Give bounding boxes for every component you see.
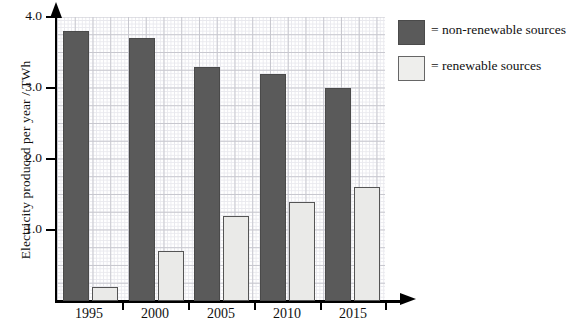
y-tick-label-1: 1.0: [6, 221, 42, 237]
bar-2005-non-renewable-sources: [194, 67, 220, 301]
chart-figure: Electricity produced per year / TWh 4.0 …: [0, 0, 576, 323]
y-tick-mark-1: [46, 229, 56, 231]
legend-item-renewable: = renewable sources: [398, 54, 576, 90]
y-tick-label-3: 3.0: [6, 79, 42, 95]
y-tick-mark-2: [46, 158, 56, 160]
x-tick-label-2015: 2015: [318, 306, 388, 322]
y-tick-mark-3: [46, 87, 56, 89]
non-renewable-swatch-icon: [398, 20, 425, 45]
x-tick-label-2010: 2010: [252, 306, 322, 322]
bar-2005-renewable-sources: [223, 216, 249, 301]
x-tick-label-1995: 1995: [54, 306, 124, 322]
chart-legend: = non-renewable sources = renewable sour…: [398, 18, 576, 90]
bar-1995-renewable-sources: [92, 287, 118, 301]
legend-label-non-renewable: = non-renewable sources: [431, 22, 566, 38]
y-tick-label-2: 2.0: [6, 150, 42, 166]
y-tick-label-4: 4.0: [6, 8, 42, 24]
x-tick-label-2005: 2005: [186, 306, 256, 322]
x-tick-label-2000: 2000: [120, 306, 190, 322]
legend-item-non-renewable: = non-renewable sources: [398, 18, 576, 54]
legend-label-renewable: = renewable sources: [431, 58, 541, 74]
bar-2015-renewable-sources: [354, 187, 380, 301]
bar-2010-renewable-sources: [289, 202, 315, 301]
bar-2000-non-renewable-sources: [129, 38, 155, 301]
x-axis-arrow-icon: [400, 293, 416, 305]
bar-2010-non-renewable-sources: [260, 74, 286, 301]
y-tick-mark-4: [46, 16, 56, 18]
bar-2015-non-renewable-sources: [325, 88, 351, 301]
bar-1995-non-renewable-sources: [63, 31, 89, 301]
bar-2000-renewable-sources: [158, 251, 184, 301]
renewable-swatch-icon: [398, 56, 425, 81]
